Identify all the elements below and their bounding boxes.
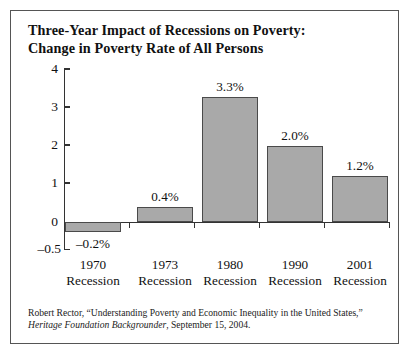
x-category-label-1990: 1990 Recession (262, 257, 328, 288)
x-category-label-1970: 1970 Recession (60, 257, 126, 288)
chart-title-line-1: Three-Year Impact of Recessions on Pover… (28, 21, 378, 39)
x-category-word-2001: Recession (327, 273, 393, 289)
bar-1980[interactable] (202, 97, 258, 222)
footnote-date: , September 15, 2004. (166, 319, 250, 330)
y-tick-mark-3 (64, 106, 70, 107)
x-category-word-1990: Recession (262, 273, 328, 289)
y-tick-mark-2 (64, 144, 70, 145)
x-tick-4 (324, 223, 325, 228)
y-tick-mark-1 (64, 182, 70, 183)
bar-value-1980: 3.3% (202, 80, 258, 94)
x-tick-1 (129, 223, 130, 228)
x-tick-3 (259, 223, 260, 228)
bar-1973[interactable] (137, 207, 193, 222)
y-tick-mark-4 (64, 68, 70, 69)
x-category-word-1973: Recession (132, 273, 198, 289)
footnote-line-2: Heritage Foundation Backgrounder, Septem… (28, 319, 384, 331)
x-category-year-1973: 1973 (132, 257, 198, 273)
y-tick-label-0: 0 (14, 215, 58, 229)
x-category-label-2001: 2001 Recession (327, 257, 393, 288)
bar-value-1990: 2.0% (267, 129, 323, 143)
bar-1970[interactable] (65, 222, 121, 232)
chart-title-line-2: Change in Poverty Rate of All Persons (28, 39, 378, 57)
source-footnote: Robert Rector, “Understanding Poverty an… (28, 307, 384, 332)
x-tick-2 (194, 223, 195, 228)
bar-value-1970: –0.2% (65, 237, 121, 251)
footnote-line-1: Robert Rector, “Understanding Poverty an… (28, 307, 384, 319)
x-category-word-1980: Recession (197, 273, 263, 289)
x-category-label-1980: 1980 Recession (197, 257, 263, 288)
y-tick-label-1: 1 (14, 176, 58, 190)
x-category-year-1990: 1990 (262, 257, 328, 273)
bar-2001[interactable] (332, 176, 388, 222)
plot-area: 4 3 2 1 0 –0.5 –0.2% 0.4% (11, 61, 400, 301)
x-category-year-1980: 1980 (197, 257, 263, 273)
x-tick-5 (389, 223, 390, 228)
y-tick-label-4: 4 (14, 62, 58, 76)
x-category-year-1970: 1970 (60, 257, 126, 273)
x-category-label-1973: 1973 Recession (132, 257, 198, 288)
y-tick-label-3: 3 (14, 100, 58, 114)
y-tick-label-2: 2 (14, 138, 58, 152)
figure-frame: Three-Year Impact of Recessions on Pover… (10, 10, 399, 344)
bar-value-2001: 1.2% (332, 159, 388, 173)
bar-1990[interactable] (267, 146, 323, 222)
x-category-word-1970: Recession (60, 273, 126, 289)
bar-value-1973: 0.4% (137, 190, 193, 204)
x-category-year-2001: 2001 (327, 257, 393, 273)
chart-title: Three-Year Impact of Recessions on Pover… (28, 21, 378, 57)
y-tick-label-neg-half: –0.5 (17, 242, 61, 256)
footnote-publication-title: Heritage Foundation Backgrounder (28, 319, 166, 330)
